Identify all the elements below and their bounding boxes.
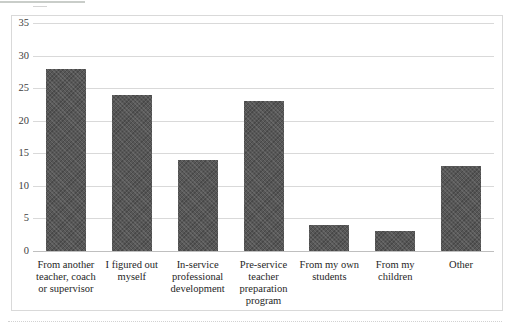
x-category-label-line: preparation — [228, 283, 300, 295]
bar-3 — [178, 160, 218, 251]
bar-2 — [112, 95, 152, 251]
y-axis-tick-label: 20 — [2, 115, 29, 127]
y-axis-tick-label: 25 — [2, 82, 29, 94]
x-category-label-line: program — [228, 295, 300, 307]
x-category-label-line: children — [359, 271, 431, 283]
x-category-label: From mychildren — [359, 259, 431, 283]
y-axis-tick-label: 0 — [2, 245, 29, 257]
y-axis-tick-label: 35 — [2, 17, 29, 29]
x-category-label: From my ownstudents — [293, 259, 365, 283]
y-axis-tick-label: 10 — [2, 180, 29, 192]
x-category-label-line: myself — [96, 271, 168, 283]
y-axis-tick-label: 15 — [2, 147, 29, 159]
x-category-label-line: professional — [162, 271, 234, 283]
x-category-label: In-serviceprofessionaldevelopment — [162, 259, 234, 295]
x-category-label-line: development — [162, 283, 234, 295]
x-category-label: Pre-serviceteacherpreparationprogram — [228, 259, 300, 307]
x-category-label: Other — [425, 259, 497, 271]
x-category-label-line: or supervisor — [30, 283, 102, 295]
x-category-label-line: Pre-service — [228, 259, 300, 271]
page-artifact-line-top — [0, 1, 85, 3]
x-category-label-line: From my — [359, 259, 431, 271]
page-artifact-line-bottom — [8, 321, 502, 322]
x-axis-line — [33, 251, 494, 252]
x-category-label-line: Other — [425, 259, 497, 271]
bar-7 — [441, 166, 481, 251]
x-category-label: From anotherteacher, coachor supervisor — [30, 259, 102, 295]
x-category-label-line: students — [293, 271, 365, 283]
gridline-35 — [33, 23, 494, 24]
y-axis-tick-label: 30 — [2, 50, 29, 62]
chart-screenshot: 05101520253035From anotherteacher, coach… — [0, 0, 511, 328]
bar-5 — [309, 225, 349, 251]
page-artifact-dash — [33, 6, 47, 7]
x-category-label-line: From another — [30, 259, 102, 271]
gridline-25 — [33, 88, 494, 89]
x-category-label-line: I figured out — [96, 259, 168, 271]
x-category-label-line: In-service — [162, 259, 234, 271]
bar-6 — [375, 231, 415, 251]
x-category-label-line: teacher, coach — [30, 271, 102, 283]
bar-1 — [46, 69, 86, 251]
y-axis-tick-label: 5 — [2, 212, 29, 224]
gridline-30 — [33, 56, 494, 57]
x-category-label-line: teacher — [228, 271, 300, 283]
x-category-label: I figured outmyself — [96, 259, 168, 283]
bar-4 — [244, 101, 284, 251]
x-category-label-line: From my own — [293, 259, 365, 271]
